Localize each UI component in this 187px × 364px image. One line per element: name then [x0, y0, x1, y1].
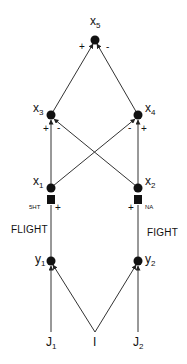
node-x5	[91, 36, 100, 45]
label-J2: J2	[133, 336, 143, 351]
sign-x1-x4: -	[128, 123, 131, 133]
edge-x1-x4	[53, 119, 135, 186]
label-J1: J1	[46, 336, 56, 351]
modulator-square-left	[47, 195, 55, 204]
edge-x4-x5	[97, 44, 138, 115]
label-x3: x3	[33, 102, 43, 117]
sign-x2-x4: +	[141, 124, 147, 134]
modulator-label-5ht: 5HT	[29, 204, 40, 210]
node-x3	[47, 111, 56, 120]
label-x5: x5	[90, 15, 100, 30]
network-diagram-canvas	[0, 0, 187, 364]
edge-I-y2	[95, 265, 136, 332]
label-y2: y2	[145, 253, 155, 268]
sign-x2-x3: -	[57, 123, 60, 133]
pathway-label-flight: FLIGHT	[11, 225, 48, 235]
sign-x4-x5: -	[106, 42, 109, 52]
node-x4	[134, 111, 143, 120]
label-y1: y1	[35, 253, 45, 268]
label-x1: x1	[33, 175, 43, 190]
edge-x2-x3	[54, 119, 136, 186]
sign-x1-x3: +	[43, 124, 49, 134]
sign-x3-x5: +	[79, 42, 85, 52]
modulator-square-right	[134, 195, 142, 204]
edge-I-y1	[53, 265, 95, 332]
pathway-label-fight: FIGHT	[147, 228, 178, 238]
label-x2: x2	[145, 175, 155, 190]
sign-y1-x1: +	[55, 203, 61, 213]
node-y2	[134, 257, 143, 266]
label-x4: x4	[145, 102, 155, 117]
edge-x3-x5	[51, 44, 93, 115]
sign-y2-x2: +	[128, 203, 134, 213]
label-I: I	[93, 336, 96, 348]
node-y1	[47, 257, 56, 266]
node-x1	[47, 184, 56, 193]
modulator-label-na: NA	[145, 204, 153, 210]
node-x2	[134, 184, 143, 193]
